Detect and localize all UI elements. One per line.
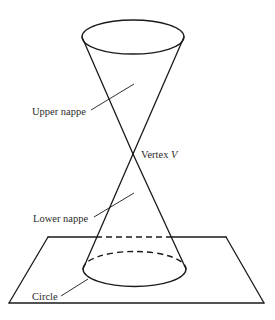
circle-leader bbox=[61, 279, 88, 296]
lower-nappe-label: Lower nappe bbox=[33, 213, 88, 224]
upper-nappe-rim bbox=[82, 20, 184, 54]
cone-diagram: Upper nappe Vertex V Lower nappe Circle bbox=[0, 0, 275, 320]
plane-right-edge bbox=[226, 237, 264, 303]
vertex-label: Vertex V bbox=[141, 149, 179, 160]
circle-front-arc bbox=[83, 269, 186, 287]
upper-nappe-right-generator bbox=[133, 37, 184, 154]
lower-nappe bbox=[83, 154, 186, 287]
circle-back-arc-hidden bbox=[83, 252, 186, 270]
vertex-label-prefix: Vertex bbox=[141, 149, 171, 160]
upper-nappe-left-generator bbox=[82, 37, 133, 154]
lower-nappe-left-generator bbox=[83, 154, 133, 269]
upper-nappe-label: Upper nappe bbox=[32, 106, 86, 117]
upper-nappe bbox=[82, 20, 184, 154]
circle-label: Circle bbox=[32, 291, 58, 302]
vertex-symbol: V bbox=[171, 149, 179, 160]
